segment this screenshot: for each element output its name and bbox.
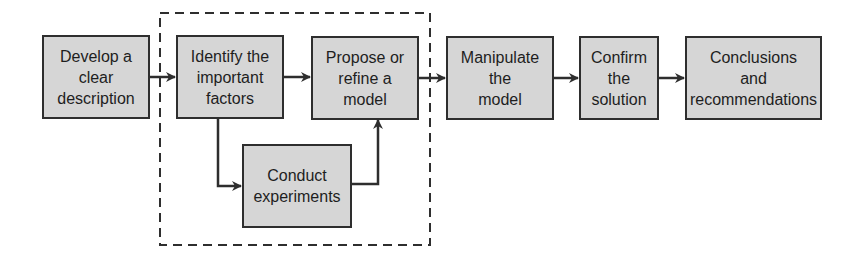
node-develop-description: Develop a clear description <box>42 35 150 119</box>
node-conclusions-recommendations: Conclusions and recommendations <box>685 36 822 120</box>
arrow-experiments-to-propose <box>352 120 378 184</box>
arrow-identify-to-experiments <box>218 118 241 186</box>
node-conduct-experiments: Conduct experiments <box>242 144 352 228</box>
node-confirm-solution: Confirm the solution <box>579 36 659 120</box>
node-propose-model: Propose or refine a model <box>311 36 419 120</box>
node-manipulate-model: Manipulate the model <box>446 36 554 120</box>
node-identify-factors: Identify the important factors <box>176 35 284 119</box>
flowchart-canvas: Develop a clear description Identify the… <box>0 0 866 260</box>
